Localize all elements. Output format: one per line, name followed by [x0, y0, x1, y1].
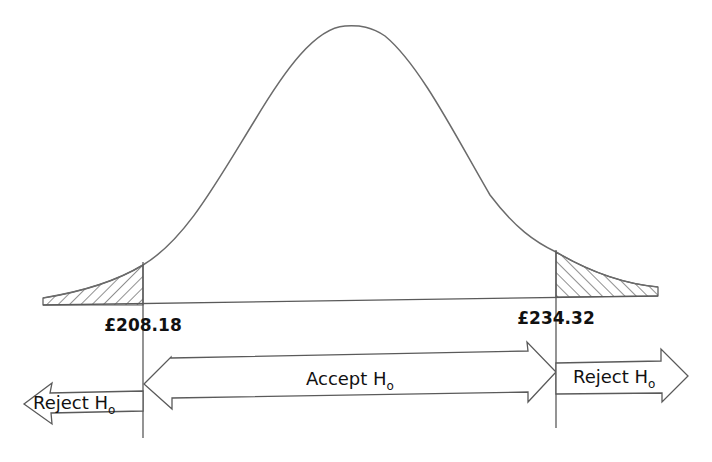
- normal-distribution-curve: [43, 26, 658, 298]
- upper-critical-value-label: £234.32: [517, 308, 594, 328]
- lower-critical-value-label: £208.18: [104, 315, 181, 335]
- left-tail-shaded-region: [43, 265, 143, 305]
- hypothesis-test-diagram: £208.18 £234.32 Reject Ho Accept Ho Reje…: [0, 0, 712, 462]
- right-tail-shaded-region: [556, 252, 658, 297]
